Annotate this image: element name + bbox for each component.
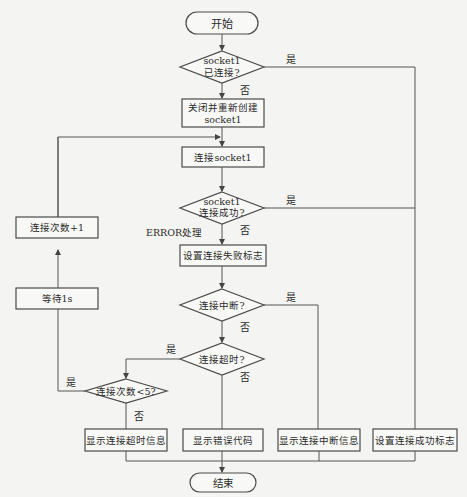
decision-interrupt: 连接中断?	[180, 289, 264, 321]
no-label-interrupt: 否	[240, 322, 250, 333]
box-recreate-line2: socket1	[204, 114, 241, 125]
flowchart: 开始 socket1 已连接? 是 否 关闭并重新创建 socket1 连接so…	[0, 0, 467, 497]
box-wait: 等待1s	[16, 288, 98, 309]
decision-connected-line1: socket1	[203, 55, 240, 66]
decision-success-line1: socket1	[203, 196, 240, 207]
yes-label-interrupt: 是	[286, 292, 296, 303]
no-label-success: 否	[240, 225, 250, 236]
decision-interrupt-label: 连接中断?	[199, 300, 244, 311]
box-show-error: 显示错误代码	[183, 429, 263, 451]
box-set-fail-label: 设置连接失败标志	[183, 250, 263, 261]
decision-count-label: 连接次数<5?	[96, 386, 155, 397]
box-show-interrupt: 显示连接中断信息	[278, 429, 360, 451]
box-show-timeout: 显示连接超时信息	[85, 429, 167, 451]
decision-success-line2: 连接成功?	[199, 207, 244, 218]
box-recreate-line1: 关闭并重新创建	[188, 102, 258, 113]
box-show-interrupt-label: 显示连接中断信息	[279, 435, 359, 446]
decision-connected: socket1 已连接?	[180, 51, 264, 83]
box-recreate-socket: 关闭并重新创建 socket1	[182, 99, 264, 127]
yes-label-timeout: 是	[166, 344, 176, 355]
decision-timeout: 连接超时?	[180, 343, 264, 375]
decision-timeout-label: 连接超时?	[199, 354, 244, 365]
box-show-timeout-label: 显示连接超时信息	[86, 435, 166, 446]
end-node: 结束	[190, 473, 256, 492]
yes-label-success: 是	[286, 195, 296, 206]
yes-label-connected: 是	[286, 54, 296, 65]
box-increment-label: 连接次数+1	[30, 222, 84, 233]
decision-count: 连接次数<5?	[85, 379, 167, 403]
box-show-error-label: 显示错误代码	[193, 435, 253, 446]
start-label: 开始	[211, 17, 233, 31]
box-set-success-flag: 设置连接成功标志	[373, 429, 457, 451]
box-connect-socket: 连接socket1	[182, 147, 264, 167]
end-label: 结束	[213, 477, 234, 489]
decision-connected-line2: 已连接?	[204, 67, 239, 78]
box-connect-label: 连接socket1	[194, 152, 251, 163]
box-set-fail-flag: 设置连接失败标志	[180, 245, 266, 266]
no-label-timeout: 否	[240, 372, 250, 383]
no-label-count: 否	[134, 411, 144, 422]
error-handling-label: ERROR处理	[146, 227, 202, 238]
box-increment: 连接次数+1	[16, 217, 98, 238]
no-label-connected: 否	[240, 85, 250, 96]
decision-success: socket1 连接成功?	[180, 192, 264, 224]
yes-label-count: 是	[66, 377, 76, 388]
box-wait-label: 等待1s	[42, 293, 73, 304]
box-set-success-label: 设置连接成功标志	[375, 435, 455, 446]
start-node: 开始	[186, 12, 258, 34]
